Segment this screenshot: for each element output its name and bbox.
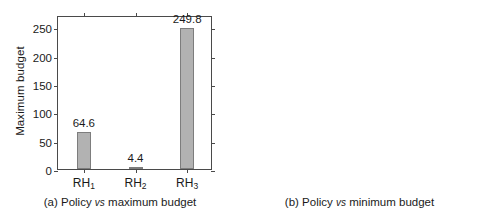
bar-value-label: 64.6 <box>73 117 95 129</box>
y-tick-mark-right <box>211 58 215 59</box>
y-tick-mark-right <box>211 86 215 87</box>
y-tick-label: 200 <box>33 52 52 64</box>
x-tick-mark-top <box>136 13 137 17</box>
caption-prefix-a: (a) Policy <box>44 196 92 208</box>
y-tick-mark-right <box>211 29 215 30</box>
bar <box>129 167 143 169</box>
x-tick-mark <box>187 169 188 173</box>
y-axis-label-a: Maximum budget <box>14 41 26 141</box>
caption-vs-a: vs <box>95 197 105 208</box>
x-tick-label-base: RH <box>124 176 141 190</box>
x-tick-label: RH1 <box>73 176 95 190</box>
bar <box>180 28 194 169</box>
x-tick-label-subscript: 2 <box>142 181 147 191</box>
y-tick-label: 250 <box>33 23 52 35</box>
bar <box>77 132 91 169</box>
y-tick-mark-right <box>211 143 215 144</box>
bar-value-label: 4.4 <box>128 152 144 164</box>
x-tick-mark-top <box>84 13 85 17</box>
caption-suffix-b: minimum budget <box>349 196 434 208</box>
y-tick-mark <box>54 171 58 172</box>
x-tick-mark <box>84 169 85 173</box>
x-tick-label: RH2 <box>124 176 146 190</box>
x-tick-label-base: RH <box>176 176 193 190</box>
x-tick-label-base: RH <box>73 176 90 190</box>
plot-area-a: 050100150200250RH164.6RH24.4RH3249.8 <box>57 16 212 170</box>
y-tick-mark-right <box>211 114 215 115</box>
y-tick-mark <box>54 143 58 144</box>
chart-panel-a: Maximum budget 050100150200250RH164.6RH2… <box>0 0 240 220</box>
bar-value-label: 249.8 <box>173 13 202 25</box>
chart-panel-b: Minimum budget 050100150RH134.5RH20.76RH… <box>240 0 479 220</box>
x-tick-label-subscript: 1 <box>90 181 95 191</box>
y-tick-mark-right <box>211 171 215 172</box>
x-tick-label-subscript: 3 <box>193 181 198 191</box>
chart-caption-b: (b) Policy vs minimum budget <box>240 196 479 208</box>
y-tick-mark <box>54 29 58 30</box>
caption-suffix-a: maximum budget <box>108 196 196 208</box>
y-tick-label: 0 <box>46 165 52 177</box>
caption-prefix-b: (b) Policy <box>285 196 333 208</box>
caption-vs-b: vs <box>336 197 346 208</box>
y-tick-mark <box>54 58 58 59</box>
y-tick-label: 50 <box>39 137 52 149</box>
y-tick-label: 150 <box>33 80 52 92</box>
chart-caption-a: (a) Policy vs maximum budget <box>0 196 240 208</box>
y-tick-mark <box>54 86 58 87</box>
y-tick-mark <box>54 114 58 115</box>
x-tick-mark <box>136 169 137 173</box>
x-tick-label: RH3 <box>176 176 198 190</box>
y-tick-label: 100 <box>33 108 52 120</box>
figure-two-bar-charts: Maximum budget 050100150200250RH164.6RH2… <box>0 0 479 220</box>
